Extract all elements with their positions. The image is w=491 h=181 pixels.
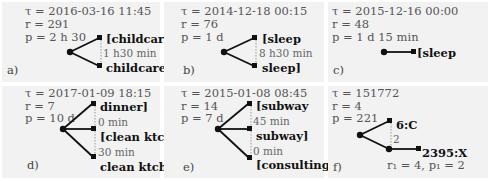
graph-edges <box>0 0 491 181</box>
